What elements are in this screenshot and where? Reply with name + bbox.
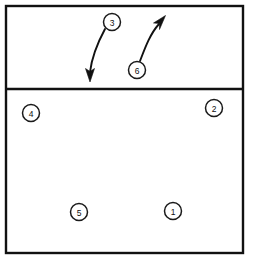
player-marker-4[interactable]: 4 — [23, 105, 40, 122]
player-number-label: 2 — [212, 104, 217, 114]
player-number-label: 6 — [135, 66, 140, 76]
player-marker-1[interactable]: 1 — [165, 203, 182, 220]
player-number-label: 3 — [110, 18, 115, 28]
volleyball-court-diagram: 364251 — [0, 0, 253, 265]
court-boundary — [6, 6, 243, 253]
player-marker-3[interactable]: 3 — [104, 14, 121, 31]
player-marker-5[interactable]: 5 — [71, 204, 88, 221]
player-number-label: 4 — [29, 109, 34, 119]
court-canvas: 364251 — [0, 0, 253, 265]
player-number-label: 5 — [77, 208, 82, 218]
player-marker-6[interactable]: 6 — [129, 62, 146, 79]
player-marker-2[interactable]: 2 — [206, 100, 223, 117]
player-number-label: 1 — [171, 207, 176, 217]
